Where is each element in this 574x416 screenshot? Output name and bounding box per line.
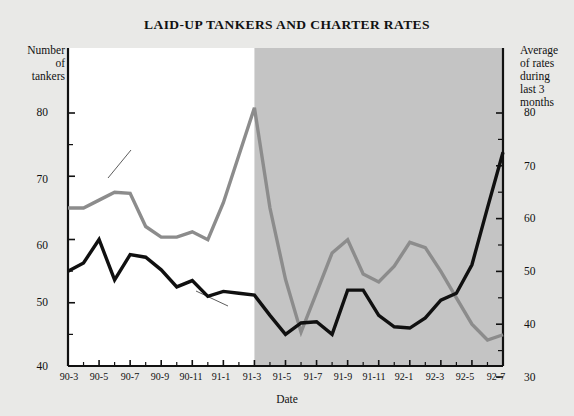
shaded-band [254, 48, 503, 366]
plot-background-group [68, 48, 503, 366]
chart-figure: LAID-UP TANKERS AND CHARTER RATES Number… [0, 0, 574, 416]
plot-area [0, 0, 574, 416]
